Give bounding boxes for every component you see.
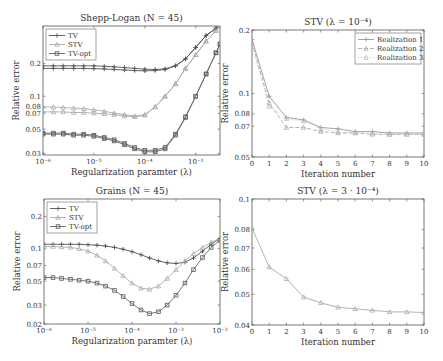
x-tick-label: 10⁻³: [188, 158, 204, 166]
y-tick-label: 0.07: [26, 262, 42, 270]
y-tick-label: 0.08: [25, 103, 41, 111]
plus-marker: [41, 66, 45, 70]
plus-marker: [86, 243, 90, 247]
y-tick-label: 0.07: [234, 245, 250, 253]
legend-label: Realization 2: [377, 45, 423, 53]
plus-marker: [95, 243, 99, 247]
y-tick-label: 0.05: [26, 278, 42, 286]
chart-title: Shepp-Logan (N = 45): [80, 13, 183, 23]
x-axis-label: Iteration number: [301, 169, 376, 179]
y-tick-label: 0.2: [31, 213, 42, 221]
chart-stv-iterations-1e-4: STV (λ = 10⁻⁴)0123456789100.050.070.080.…: [220, 17, 428, 179]
y-tick-label: 0.1: [31, 245, 42, 253]
x-tick-label: 6: [353, 160, 358, 168]
chart-shepp-logan: Shepp-Logan (N = 45)10⁻⁶10⁻⁵10⁻⁴10⁻³0.03…: [11, 13, 222, 177]
legend-label: STV: [69, 214, 84, 222]
plus-marker: [102, 67, 106, 71]
x-tick-label: 8: [387, 328, 391, 336]
x-tick-label: 0: [250, 160, 254, 168]
x-tick-label: 9: [405, 328, 409, 336]
series-line: [43, 44, 220, 152]
y-axis-label: Relative error: [220, 62, 230, 123]
y-tick-label: 0.07: [234, 123, 250, 131]
x-axis-label: Regularization paramter (λ): [72, 336, 193, 346]
x-tick-label: 3: [301, 328, 305, 336]
x-tick-label: 10⁻²: [212, 327, 228, 335]
x-tick-label: 7: [370, 160, 374, 168]
chart-stv-iterations-3e-4: STV (λ = 3 · 10⁻⁴)0123456789100.040.050.…: [220, 186, 428, 347]
x-tick-label: 10: [420, 328, 429, 336]
series-group: [250, 226, 426, 315]
plus-marker: [165, 261, 169, 265]
x-tick-label: 0: [250, 328, 254, 336]
x-tick-label: 10⁻³: [168, 327, 184, 335]
y-tick-label: 0.05: [25, 126, 41, 134]
plus-marker: [112, 245, 116, 249]
chart-title: STV (λ = 3 · 10⁻⁴): [297, 186, 379, 196]
plus-marker: [122, 68, 126, 72]
y-axis-label: Relative error: [220, 231, 230, 292]
plus-marker: [92, 66, 96, 70]
x-tick-label: 9: [405, 160, 409, 168]
series-group: [42, 236, 222, 315]
y-axis-label: Relative error: [12, 230, 22, 291]
chart-title: STV (λ = 10⁻⁴): [304, 17, 371, 27]
chart-title: Grains (N = 45): [96, 186, 169, 196]
x-tick-label: 3: [301, 160, 305, 168]
legend-label: STV: [68, 41, 83, 49]
y-tick-label: 0.08: [234, 226, 250, 234]
plus-marker: [132, 68, 136, 72]
plus-marker: [163, 67, 167, 71]
legend-label: TV: [69, 205, 80, 213]
y-tick-label: 0.04: [234, 322, 250, 330]
legend-label: Realization 3: [377, 54, 423, 62]
y-tick-label: 0.08: [234, 110, 250, 118]
x-tick-label: 4: [319, 160, 324, 168]
y-axis-label: Relative error: [11, 59, 21, 120]
y-tick-label: 0.03: [25, 150, 41, 158]
x-tick-label: 10⁻⁵: [86, 158, 102, 166]
x-tick-label: 10⁻⁵: [80, 327, 96, 335]
y-tick-label: 0.05: [234, 154, 250, 162]
plus-marker: [121, 247, 125, 251]
x-tick-label: 8: [387, 160, 391, 168]
y-tick-label: 0.02: [26, 321, 42, 329]
x-tick-label: 10⁻⁴: [137, 158, 153, 166]
y-tick-label: 0.2: [239, 27, 250, 35]
y-tick-label: 0.1: [239, 196, 250, 204]
x-axis-label: Regularization paramter (λ): [71, 167, 192, 177]
y-tick-label: 0.1: [30, 93, 41, 101]
chart-grains: Grains (N = 45)10⁻⁶10⁻⁵10⁻⁴10⁻³10⁻²0.020…: [12, 186, 228, 346]
y-tick-label: 0.1: [239, 90, 250, 98]
x-tick-label: 2: [284, 328, 288, 336]
plus-marker: [112, 67, 116, 71]
plus-marker: [61, 66, 65, 70]
figure: Shepp-Logan (N = 45)10⁻⁶10⁻⁵10⁻⁴10⁻³0.03…: [0, 0, 443, 361]
plus-marker: [71, 66, 75, 70]
legend: TVSTVTV-opt: [47, 202, 97, 233]
plus-marker: [130, 249, 134, 253]
plus-marker: [81, 66, 85, 70]
x-tick-label: 2: [284, 160, 288, 168]
x-tick-label: 7: [370, 328, 374, 336]
plus-marker: [51, 66, 55, 70]
x-tick-label: 1: [267, 160, 271, 168]
y-tick-label: 0.2: [30, 60, 41, 68]
legend-label: Realization 1: [377, 36, 423, 44]
plus-marker: [147, 256, 151, 260]
x-tick-label: 5: [336, 160, 340, 168]
x-tick-label: 10: [420, 160, 429, 168]
legend-label: TV-opt: [69, 223, 92, 231]
x-axis-label: Iteration number: [301, 337, 376, 347]
x-tick-label: 6: [353, 328, 358, 336]
y-tick-label: 0.06: [234, 266, 250, 274]
x-tick-label: 5: [336, 328, 340, 336]
x-tick-label: 10⁻⁶: [35, 158, 51, 166]
x-tick-label: 1: [267, 328, 271, 336]
legend-label: TV: [68, 32, 79, 40]
y-tick-label: 0.05: [234, 291, 250, 299]
series-line: [252, 228, 424, 313]
y-tick-label: 0.03: [26, 302, 42, 310]
plus-marker: [139, 253, 143, 257]
legend: TVSTVTV-opt: [46, 29, 96, 60]
